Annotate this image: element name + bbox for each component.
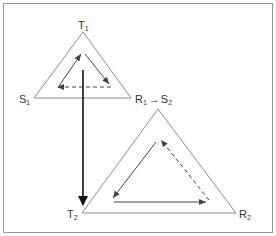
label-r1-to-s2: R1→S2 [135,93,172,106]
diagram-frame [4,4,273,233]
triad-diagram: T1 S1 R1→S2 T2 R2 [0,0,276,236]
